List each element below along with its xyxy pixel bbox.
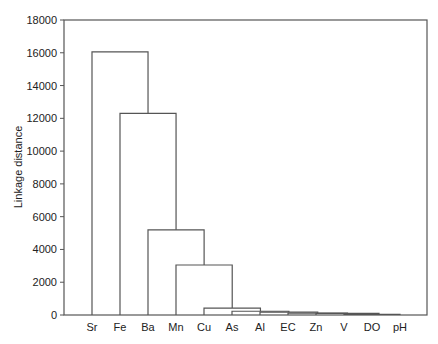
leaf-label: Sr	[87, 321, 98, 333]
leaf-label: Ba	[141, 321, 155, 333]
dendrogram-link	[358, 314, 400, 315]
y-tick-label: 4000	[33, 243, 57, 255]
leaf-label: V	[340, 321, 348, 333]
dendrogram-chart: 0200040006000800010000120001400016000180…	[0, 0, 438, 344]
leaf-label: EC	[280, 321, 295, 333]
y-tick-label: 18000	[26, 14, 57, 26]
plot-frame	[64, 20, 427, 315]
y-tick-label: 6000	[33, 211, 57, 223]
y-tick-label: 12000	[26, 112, 57, 124]
y-axis-title: Linkage distance	[12, 126, 24, 209]
y-tick-label: 10000	[26, 145, 57, 157]
leaf-label: Mn	[168, 321, 183, 333]
y-tick-label: 14000	[26, 80, 57, 92]
leaf-label: As	[226, 321, 239, 333]
y-tick-label: 8000	[33, 178, 57, 190]
y-tick-label: 16000	[26, 47, 57, 59]
leaf-label: Al	[255, 321, 265, 333]
dendrogram-link	[176, 265, 232, 315]
y-tick-label: 2000	[33, 276, 57, 288]
leaf-label: Cu	[197, 321, 211, 333]
leaf-label: Zn	[310, 321, 323, 333]
leaf-label: Fe	[114, 321, 127, 333]
leaf-label: pH	[393, 321, 407, 333]
y-tick-label: 0	[51, 309, 57, 321]
leaf-label: DO	[364, 321, 381, 333]
